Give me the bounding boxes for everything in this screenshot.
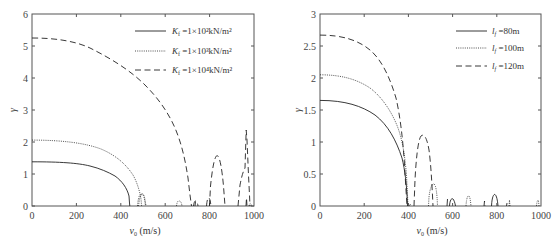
legend: lf =80m lf =100m lf =120m [456, 26, 524, 72]
svg-text:lf =100m: lf =100m [492, 43, 524, 54]
svg-text:Kf =1×10²kN/m²: Kf =1×10²kN/m² [171, 26, 232, 37]
y-tick-label: 3 [23, 105, 28, 116]
x-tick-label: 200 [357, 210, 372, 221]
y-tick-label: 6 [23, 9, 28, 20]
x-tick-label: 200 [69, 210, 84, 221]
legend-item: Kf =1×10²kN/m² [135, 26, 232, 37]
legend-item: Kf =1×10⁴kN/m² [135, 65, 233, 76]
y-axis-label: γ [292, 107, 303, 112]
y-tick-label: 4 [23, 73, 28, 84]
y-tick-label: 0 [23, 201, 28, 212]
series-lf-100 [320, 75, 539, 206]
y-tick-label: 2 [23, 137, 28, 148]
x-tick-labels: 0 200 400 600 800 1000 [318, 210, 552, 221]
chart-right: 0 0.5 1 1.5 2 2.5 3 0 200 400 600 800 10… [292, 9, 551, 237]
x-tick-label: 0 [30, 210, 35, 221]
y-tick-label: 3 [311, 9, 316, 20]
y-tick-labels: 0 0.5 1 1.5 2 2.5 3 [304, 9, 317, 212]
y-tick-label: 1 [23, 169, 28, 180]
legend-item: Kf =1×10³kN/m² [135, 46, 232, 57]
y-tick-label: 1.5 [304, 105, 317, 116]
series-kf-1e2 [32, 162, 130, 206]
legend: Kf =1×10²kN/m² Kf =1×10³kN/m² Kf =1×10⁴k… [135, 26, 233, 76]
series-kf-1e4 [32, 38, 250, 206]
x-tick-label: 0 [318, 210, 323, 221]
x-tick-label: 600 [158, 210, 173, 221]
x-axis-label: v0 (m/s) [129, 225, 160, 237]
y-tick-label: 1 [311, 137, 316, 148]
y-tick-label: 0.5 [304, 169, 317, 180]
figure: 0 1 2 3 4 5 6 0 200 400 600 800 1000 v0 … [0, 0, 559, 245]
y-tick-label: 2.5 [304, 41, 317, 52]
x-tick-label: 800 [202, 210, 217, 221]
x-tick-label: 400 [113, 210, 128, 221]
x-tick-label: 1000 [244, 210, 264, 221]
y-tick-label: 0 [311, 201, 316, 212]
x-axis-ticks [76, 14, 209, 206]
series-lf-80 [320, 100, 507, 206]
x-axis-ticks [364, 14, 497, 206]
x-tick-label: 600 [445, 210, 460, 221]
y-tick-label: 5 [23, 41, 28, 52]
chart-left: 0 1 2 3 4 5 6 0 200 400 600 800 1000 v0 … [7, 9, 264, 237]
series-lf-120 [320, 35, 485, 206]
x-tick-label: 800 [489, 210, 504, 221]
x-axis-label: v0 (m/s) [416, 225, 447, 237]
svg-text:Kf =1×10³kN/m²: Kf =1×10³kN/m² [171, 46, 232, 57]
y-tick-labels: 0 1 2 3 4 5 6 [23, 9, 28, 212]
plot-frame [32, 14, 254, 206]
legend-item: lf =120m [456, 61, 524, 72]
svg-text:lf =80m: lf =80m [492, 26, 520, 37]
svg-text:Kf =1×10⁴kN/m²: Kf =1×10⁴kN/m² [171, 65, 233, 76]
svg-text:lf =120m: lf =120m [492, 61, 524, 72]
legend-item: lf =80m [456, 26, 520, 37]
y-tick-label: 2 [311, 73, 316, 84]
series-kf-1e3 [32, 140, 252, 206]
x-tick-label: 400 [401, 210, 416, 221]
x-tick-label: 1000 [531, 210, 551, 221]
legend-item: lf =100m [456, 43, 524, 54]
x-tick-labels: 0 200 400 600 800 1000 [30, 210, 265, 221]
y-axis-label: γ [7, 107, 18, 112]
